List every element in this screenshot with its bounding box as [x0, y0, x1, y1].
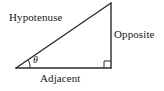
hypotenuse-label: Hypotenuse	[9, 12, 63, 23]
angle-arc-icon	[29, 60, 31, 68]
theta-angle-label: θ	[33, 55, 38, 65]
right-angle-marker-icon	[104, 61, 111, 68]
trig-diagram: Hypotenuse Opposite Adjacent θ	[0, 0, 164, 91]
opposite-label: Opposite	[114, 29, 155, 40]
adjacent-label: Adjacent	[40, 73, 81, 84]
